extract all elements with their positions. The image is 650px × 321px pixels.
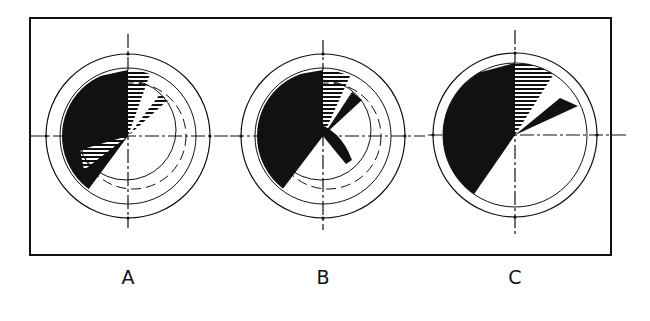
panel-b bbox=[230, 40, 425, 230]
panel-c bbox=[428, 30, 628, 235]
panel-a bbox=[30, 34, 228, 228]
panel-label-c: C bbox=[500, 266, 530, 288]
panel-label-a: A bbox=[113, 266, 143, 288]
panel-label-b: B bbox=[308, 266, 338, 288]
